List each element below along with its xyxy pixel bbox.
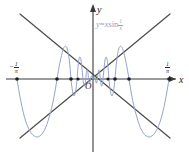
zero-dot bbox=[69, 77, 73, 81]
zero-dot bbox=[15, 77, 19, 81]
zero-dot bbox=[167, 77, 171, 81]
y-axis-arrow-icon bbox=[90, 4, 96, 12]
curve-x-sin-inv-x-left bbox=[17, 46, 93, 137]
curve-x-sin-inv-x-right bbox=[93, 46, 169, 137]
function-plot bbox=[0, 0, 189, 157]
zero-dot bbox=[113, 77, 117, 81]
zero-dot bbox=[106, 77, 109, 80]
figure-canvas: y x O y=xsin1x −1π 1π bbox=[0, 0, 189, 157]
zero-dot bbox=[55, 77, 59, 81]
zero-dot bbox=[76, 77, 79, 80]
zero-dot bbox=[127, 77, 131, 81]
